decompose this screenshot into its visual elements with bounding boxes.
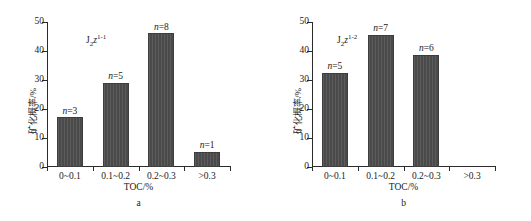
x-tick <box>47 166 48 171</box>
bar-group-b: n=5n=7n=6 <box>312 22 495 167</box>
x-tick <box>495 166 496 171</box>
x-tick-label: 0.2~0.3 <box>412 172 441 182</box>
x-tick <box>184 166 185 171</box>
panel-letter-b: b <box>312 199 495 209</box>
x-tick-label: >0.3 <box>199 172 216 182</box>
x-tick <box>93 166 94 171</box>
y-tick-label: 20 <box>300 104 310 114</box>
bar: n=8 <box>148 33 174 167</box>
bar: n=3 <box>57 117 83 167</box>
figure-two-panel-bar-charts: 矿化概率/% J2z1-1 n=3n=5n=8n=1 010203040500~… <box>0 0 531 221</box>
bar-group-a: n=3n=5n=8n=1 <box>47 22 230 167</box>
x-tick-label: 0.1~0.2 <box>101 172 130 182</box>
y-tick-label: 30 <box>35 75 45 85</box>
x-axis-label-a: TOC/% <box>47 183 230 193</box>
bar-slot: n=6 <box>404 22 450 167</box>
y-tick-label: 10 <box>35 133 45 143</box>
y-tick-label: 20 <box>35 104 45 114</box>
x-tick <box>139 166 140 171</box>
bar: n=1 <box>194 152 220 167</box>
bar-slot: n=3 <box>47 22 93 167</box>
bar-slot: n=5 <box>93 22 139 167</box>
y-tick-label: 50 <box>300 17 310 27</box>
bar: n=5 <box>103 83 129 167</box>
bar-count-label: n=5 <box>108 72 123 82</box>
bar: n=7 <box>368 35 394 167</box>
bar-slot: n=1 <box>184 22 230 167</box>
y-tick-label: 0 <box>304 162 309 172</box>
panel-a: 矿化概率/% J2z1-1 n=3n=5n=8n=1 010203040500~… <box>0 0 265 221</box>
bar-count-label: n=5 <box>327 62 342 72</box>
y-tick-label: 10 <box>300 133 310 143</box>
y-tick-label: 30 <box>300 75 310 85</box>
bar-count-label: n=6 <box>419 44 434 54</box>
y-tick-label: 0 <box>39 162 44 172</box>
bar: n=6 <box>413 55 439 167</box>
bar-slot <box>449 22 495 167</box>
bar-slot: n=7 <box>358 22 404 167</box>
x-tick-label: >0.3 <box>464 172 481 182</box>
x-tick <box>449 166 450 171</box>
y-tick-label: 40 <box>300 46 310 56</box>
x-tick <box>404 166 405 171</box>
panel-letter-a: a <box>47 199 230 209</box>
x-tick-label: 0.1~0.2 <box>366 172 395 182</box>
plot-area-b: n=5n=7n=6 010203040500~0.10.1~0.20.2~0.3… <box>312 22 495 167</box>
x-tick <box>230 166 231 171</box>
y-tick-label: 40 <box>35 46 45 56</box>
bar-slot: n=8 <box>139 22 185 167</box>
plot-area-a: n=3n=5n=8n=1 010203040500~0.10.1~0.20.2~… <box>47 22 230 167</box>
x-tick <box>312 166 313 171</box>
bar-slot: n=5 <box>312 22 358 167</box>
x-axis-label-b: TOC/% <box>312 183 495 193</box>
bar: n=5 <box>322 73 348 167</box>
x-tick-label: 0~0.1 <box>59 172 81 182</box>
bar-count-label: n=7 <box>373 24 388 34</box>
bar-count-label: n=1 <box>200 141 215 151</box>
x-tick-label: 0~0.1 <box>324 172 346 182</box>
x-tick-label: 0.2~0.3 <box>147 172 176 182</box>
x-tick <box>358 166 359 171</box>
bar-count-label: n=8 <box>154 23 169 33</box>
y-tick-label: 50 <box>35 17 45 27</box>
bar-count-label: n=3 <box>62 107 77 117</box>
panel-b: 矿化概率/% J2z1-2 n=5n=7n=6 010203040500~0.1… <box>265 0 530 221</box>
